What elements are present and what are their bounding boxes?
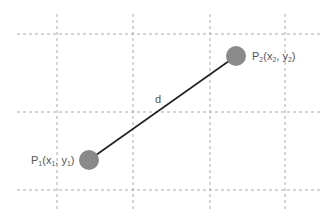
distance-segment: [89, 56, 236, 160]
distance-diagram: d P1(x1, y1) P2(x2, y2): [0, 0, 334, 222]
point-p2-label: P2(x2, y2): [252, 50, 296, 63]
point-p1-label: P1(x1, y1): [31, 154, 75, 167]
grid: [17, 14, 322, 210]
point-p2: [226, 46, 246, 66]
point-p1: [79, 150, 99, 170]
distance-label: d: [155, 93, 161, 105]
